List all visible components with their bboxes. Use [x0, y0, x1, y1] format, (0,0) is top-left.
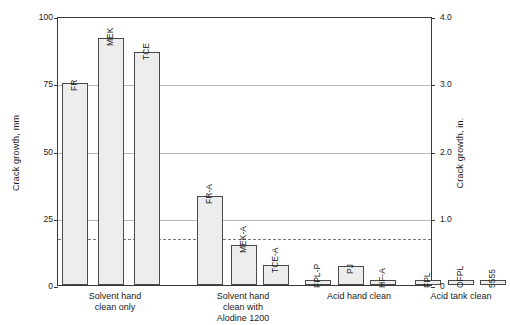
y-tick-left-50: 50	[27, 147, 53, 157]
tickmark-right	[431, 220, 435, 221]
y-tick-left-75: 75	[27, 79, 53, 89]
bar-label-ofpl: OFPL	[455, 265, 465, 287]
bar-label-mek-a: MEK-A	[238, 226, 248, 253]
y-tick-right-1.0: 1.0	[440, 214, 468, 224]
bar-label-fr-a: FR-A	[204, 184, 214, 204]
bar-label-fpl-p: FPL-P	[312, 264, 322, 288]
tickmark-left	[54, 220, 58, 221]
bar-label-fpl: FPL	[422, 272, 432, 288]
bar-label-tce-a: TCE-A	[270, 247, 280, 273]
tickmark-right	[431, 85, 435, 86]
group-caption-4: Acid tank clean	[396, 291, 510, 302]
group-caption-2: Solvent hand clean with Alodine 1200	[178, 291, 308, 324]
bar-label-pj: PJ	[345, 264, 355, 274]
y-tick-right-3.0: 3.0	[440, 79, 468, 89]
y-tick-left-25: 25	[27, 214, 53, 224]
tickmark-right	[431, 153, 435, 154]
y-tick-left-100: 100	[27, 12, 53, 22]
bar-mek	[98, 38, 124, 285]
bar-tce	[134, 52, 160, 285]
bar-label-tce: TCE	[141, 43, 151, 60]
tickmark-left	[54, 85, 58, 86]
tickmark-left	[54, 287, 58, 288]
bar-label-mek: MEK	[105, 27, 115, 45]
y-tick-left-0: 0	[27, 281, 53, 291]
bar-fr	[62, 83, 88, 285]
tickmark-left	[54, 153, 58, 154]
group-caption-1: Solvent hand clean only	[50, 291, 180, 313]
bar-fr-a	[197, 196, 223, 285]
tickmark-left	[54, 18, 58, 19]
y-tick-right-4.0: 4.0	[440, 12, 468, 22]
y-axis-left-title: Crack growth, mm	[11, 93, 21, 213]
plot-area: FRMEKTCEFR-AMEK-ATCE-AFPL-PPJHF-AFPLOFPL…	[57, 17, 432, 286]
y-tick-right-2.0: 2.0	[440, 147, 468, 157]
bar-label-5555: 5555	[487, 269, 497, 288]
bar-label-hf-a: HF-A	[377, 268, 387, 288]
bar-label-fr: FR	[69, 80, 79, 91]
tickmark-right	[431, 18, 435, 19]
